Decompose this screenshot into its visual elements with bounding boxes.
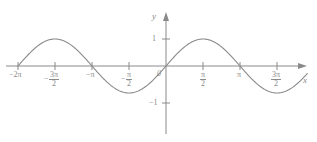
fraction-denominator: 2 <box>49 79 59 88</box>
x-tick-label-neg3pi-over2: − 3π 2 <box>49 71 59 89</box>
fraction-sign: − <box>121 75 126 83</box>
y-tick-label-1: 1 <box>152 35 156 43</box>
fraction-numerator: 3π <box>271 71 281 79</box>
y-axis-arrowhead <box>163 12 169 21</box>
x-tick-label-negpi-over2: − π 2 <box>126 71 132 89</box>
x-tick-label-pi-over2: π 2 <box>200 71 206 89</box>
fraction-numerator: π <box>200 71 206 79</box>
sine-graph-figure: y x 0 1 −1 −2π −π π − 3π 2 − π 2 π 2 3π … <box>0 0 317 142</box>
x-tick-label-neg2pi: −2π <box>9 71 22 79</box>
x-axis-arrowhead <box>298 63 307 69</box>
origin-label: 0 <box>157 70 161 78</box>
y-axis-label: y <box>152 12 156 21</box>
fraction-numerator: 3π <box>49 71 59 79</box>
fraction-denominator: 2 <box>200 79 206 88</box>
fraction-sign: − <box>44 75 49 83</box>
fraction-denominator: 2 <box>126 79 132 88</box>
fraction-denominator: 2 <box>271 79 281 88</box>
x-tick-label-pi: π <box>237 71 241 79</box>
fraction-numerator: π <box>126 71 132 79</box>
y-tick-label-neg1: −1 <box>149 99 158 107</box>
x-axis-label: x <box>303 76 307 85</box>
x-tick-label-negpi: −π <box>86 71 95 79</box>
x-tick-label-3pi-over2: 3π 2 <box>271 71 281 89</box>
